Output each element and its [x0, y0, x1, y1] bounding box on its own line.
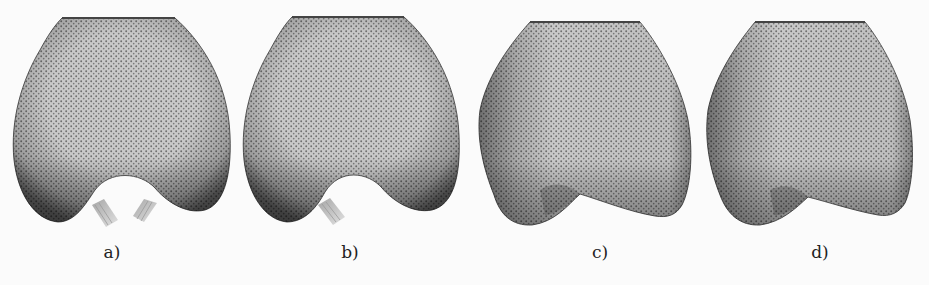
connector-b — [318, 198, 345, 225]
panel-label-a: a) — [92, 242, 132, 262]
panel-label-d: d) — [800, 242, 840, 262]
panel-label-b: b) — [330, 242, 370, 262]
mesh-panel-a — [13, 18, 230, 227]
mesh-panel-d — [707, 22, 913, 225]
mesh-panel-c — [479, 22, 691, 225]
connector-right-a — [133, 199, 157, 222]
mesh-panel-b — [243, 17, 459, 225]
connector-left-a — [92, 199, 118, 227]
panel-label-c: c) — [580, 242, 620, 262]
mesh-figure — [0, 0, 929, 285]
